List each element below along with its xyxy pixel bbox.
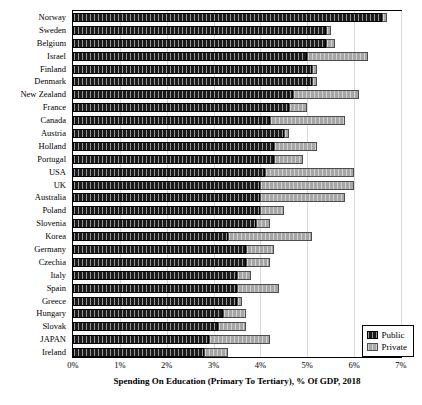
legend-label-public: Public — [382, 329, 405, 341]
x-axis-tick-label: 0% — [67, 360, 78, 370]
chart-container: NorwaySwedenBelgiumIsraelFinlandDenmarkN… — [0, 0, 422, 405]
x-axis-tick-label: 3% — [208, 360, 219, 370]
bar-segment-public — [73, 219, 256, 228]
y-axis-label: UK — [54, 181, 66, 190]
bar-segment-private — [228, 232, 312, 241]
bar-segment-public — [73, 335, 209, 344]
y-axis-label: Poland — [42, 206, 66, 215]
bar-segment-private — [260, 193, 344, 202]
y-axis-label: New Zealand — [20, 90, 66, 99]
y-axis-label: Greece — [42, 297, 66, 306]
legend-swatch-private — [367, 343, 378, 351]
bar-segment-public — [73, 26, 326, 35]
bar-segment-private — [307, 52, 368, 61]
bar-segment-public — [73, 39, 326, 48]
bar-segment-public — [73, 116, 270, 125]
bar-segment-private — [218, 322, 246, 331]
legend-item-private: Private — [367, 341, 408, 353]
y-axis-label: Slovak — [42, 322, 66, 331]
bar-segment-private — [284, 129, 289, 138]
bar-segment-public — [73, 129, 284, 138]
bar-segment-public — [73, 258, 246, 267]
legend-item-public: Public — [367, 329, 408, 341]
bar-segment-private — [246, 258, 269, 267]
bar-segment-public — [73, 193, 260, 202]
bar-segment-private — [260, 206, 283, 215]
bar-segment-private — [289, 103, 308, 112]
y-axis-label: Belgium — [37, 39, 66, 48]
y-axis-label: JAPAN — [40, 335, 66, 344]
y-axis-label: Portugal — [37, 155, 66, 164]
gridline — [401, 11, 402, 357]
y-axis-label: Austria — [41, 129, 66, 138]
bar-segment-public — [73, 297, 237, 306]
y-axis-label: Slovenia — [36, 219, 66, 228]
bar-segment-private — [237, 271, 251, 280]
y-axis-label: Italy — [50, 271, 66, 280]
y-axis-label: Germany — [34, 245, 66, 254]
y-axis-label: Sweden — [39, 26, 66, 35]
bar-segment-public — [73, 181, 260, 190]
plot-area — [72, 10, 402, 358]
bar-segment-public — [73, 168, 265, 177]
y-axis-label: Holland — [39, 142, 66, 151]
y-axis-label: Israel — [47, 52, 66, 61]
x-axis-title: Spending On Education (Primary To Tertia… — [72, 376, 402, 386]
y-axis-label: Canada — [41, 116, 67, 125]
bar-segment-public — [73, 142, 274, 151]
x-axis-tick-label: 4% — [255, 360, 266, 370]
bar-segment-private — [274, 155, 302, 164]
bar-segment-private — [312, 77, 317, 86]
x-axis-tick-label: 1% — [114, 360, 125, 370]
bar-segment-public — [73, 13, 382, 22]
bar-segment-private — [223, 309, 246, 318]
bar-segment-private — [237, 284, 279, 293]
bar-segment-public — [73, 309, 223, 318]
bar-segment-public — [73, 103, 289, 112]
bar-segment-public — [73, 65, 312, 74]
bar-segment-private — [382, 13, 387, 22]
bar-segment-private — [293, 90, 359, 99]
x-axis-ticks: 0%1%2%3%4%5%6%7% — [72, 360, 402, 374]
bar-segment-private — [260, 181, 354, 190]
bar-segment-public — [73, 77, 312, 86]
legend-swatch-public — [367, 331, 378, 339]
y-axis-category-labels: NorwaySwedenBelgiumIsraelFinlandDenmarkN… — [0, 10, 70, 358]
x-axis-tick-label: 2% — [161, 360, 172, 370]
bar-segment-public — [73, 206, 260, 215]
bar-segment-private — [237, 297, 242, 306]
bar-segment-public — [73, 284, 237, 293]
legend-label-private: Private — [382, 341, 408, 353]
y-axis-label: Australia — [35, 193, 66, 202]
bar-segment-public — [73, 232, 228, 241]
y-axis-label: USA — [49, 168, 66, 177]
bar-segment-private — [204, 348, 227, 357]
bar-segment-private — [326, 26, 331, 35]
x-axis-tick-label: 5% — [302, 360, 313, 370]
bar-rows — [73, 11, 401, 357]
bar-segment-public — [73, 245, 246, 254]
bar-segment-private — [326, 39, 335, 48]
bar-segment-public — [73, 90, 293, 99]
bar-segment-private — [312, 65, 317, 74]
y-axis-label: Hungary — [36, 309, 66, 318]
x-axis-tick-label: 6% — [348, 360, 359, 370]
bar-segment-public — [73, 155, 274, 164]
bar-segment-public — [73, 52, 307, 61]
bar-segment-private — [265, 168, 354, 177]
y-axis-label: Finland — [40, 65, 66, 74]
chart-legend: Public Private — [362, 325, 415, 357]
bar-segment-private — [270, 116, 345, 125]
y-axis-label: Norway — [39, 13, 66, 22]
y-axis-label: Spain — [47, 284, 66, 293]
y-axis-label: Ireland — [42, 348, 66, 357]
bar-segment-private — [246, 245, 274, 254]
y-axis-label: Czechia — [39, 258, 66, 267]
x-axis-tick-label: 7% — [395, 360, 406, 370]
bar-segment-private — [274, 142, 316, 151]
y-axis-label: Korea — [45, 232, 66, 241]
bar-segment-public — [73, 322, 218, 331]
bar-segment-private — [256, 219, 270, 228]
bar-segment-public — [73, 348, 204, 357]
y-axis-label: Denmark — [34, 77, 66, 86]
